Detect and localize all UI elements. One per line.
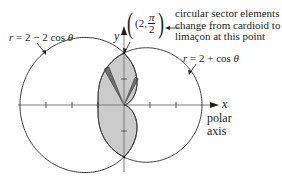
y-axis-label: y [114, 30, 119, 42]
fraction-denominator: 2 [149, 24, 155, 35]
sector-annotation: circular sector elements change from car… [175, 8, 280, 43]
annotation-line-1: circular sector elements [175, 8, 280, 20]
limacon-eq-rhs: = 2 + cos [190, 52, 231, 64]
limacon-eq-var: θ [234, 52, 239, 64]
limacon-eq-lhs: r [183, 52, 187, 64]
point-theta-fraction: π 2 [148, 12, 156, 35]
point-r-value: (2, [135, 18, 147, 29]
fraction-numerator: π [148, 12, 156, 24]
polar-axis-label: polar axis [207, 112, 232, 138]
cardioid-eq-rhs: = 2 − 2 cos [16, 31, 65, 43]
cardioid-eq-lhs: r [9, 31, 13, 43]
cardioid-equation-label: r = 2 − 2 cos θ [9, 32, 73, 43]
x-axis-label: x [222, 98, 227, 110]
cardioid-eq-var: θ [68, 31, 73, 43]
intersection-point-top [123, 52, 126, 55]
intersection-point-bottom [123, 156, 126, 159]
limacon-equation-label: r = 2 + cos θ [183, 53, 239, 64]
open-paren: ( [127, 8, 133, 38]
close-paren: ) [158, 8, 164, 38]
point-label: ( (2, π 2 ) [125, 8, 166, 38]
polar-axis-line-2: axis [207, 125, 232, 138]
x-axis-arrow-icon [210, 102, 219, 108]
annotation-line-3: limaçon at this point [175, 31, 280, 43]
